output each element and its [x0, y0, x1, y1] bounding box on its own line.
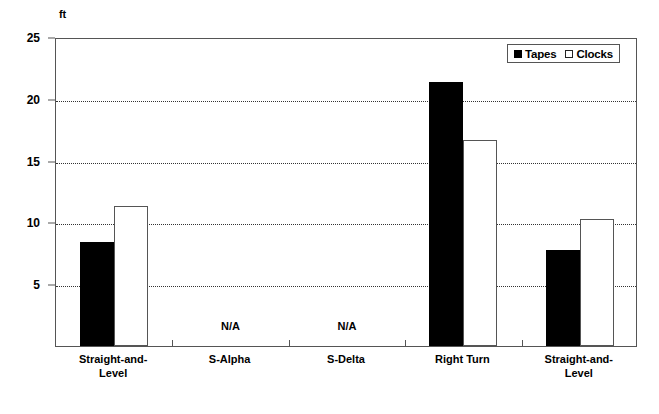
y-tick-mark-15 — [48, 161, 55, 162]
x-axis-separator — [172, 340, 173, 346]
x-tick-label-4: Straight-and- Level — [519, 352, 639, 380]
y-tick-label-20: 20 — [0, 93, 44, 107]
x-axis-separator — [405, 340, 406, 346]
legend-swatch-tapes-icon — [514, 50, 522, 58]
y-tick-label-10: 10 — [0, 216, 44, 230]
x-tick-label-3: Right Turn — [402, 352, 522, 366]
x-tick-label-1: S-Alpha — [170, 352, 290, 366]
x-axis-separator — [522, 340, 523, 346]
bar-clocks-3 — [463, 140, 497, 346]
legend-label-tapes: Tapes — [525, 48, 556, 60]
plot-area: N/AN/A — [55, 38, 637, 347]
bar-tapes-3 — [429, 82, 463, 347]
y-tick-label-15: 15 — [0, 155, 44, 169]
bar-clocks-4 — [580, 219, 614, 346]
legend-swatch-clocks-icon — [565, 50, 573, 58]
legend-entry-tapes: Tapes — [514, 48, 556, 60]
x-tick-label-2: S-Delta — [286, 352, 406, 366]
y-axis-unit-label: ft — [59, 8, 66, 20]
na-marker: N/A — [221, 320, 240, 332]
legend-label-clocks: Clocks — [576, 48, 613, 60]
y-tick-mark-5 — [48, 285, 55, 286]
gridline-20 — [56, 101, 636, 102]
y-tick-mark-10 — [48, 223, 55, 224]
y-tick-mark-25 — [48, 38, 55, 39]
y-tick-mark-20 — [48, 99, 55, 100]
y-tick-label-25: 25 — [0, 31, 44, 45]
y-tick-label-5: 5 — [0, 278, 44, 292]
x-tick-label-0: Straight-and- Level — [53, 352, 173, 380]
gridline-15 — [56, 163, 636, 164]
bar-chart: ft N/AN/A 510152025 Straight-and- LevelS… — [0, 0, 659, 414]
bar-clocks-0 — [114, 206, 148, 346]
legend: Tapes Clocks — [507, 44, 620, 63]
x-axis-separator — [289, 340, 290, 346]
bar-tapes-0 — [80, 242, 114, 346]
bar-tapes-4 — [546, 250, 580, 346]
na-marker: N/A — [338, 320, 357, 332]
legend-entry-clocks: Clocks — [565, 48, 613, 60]
